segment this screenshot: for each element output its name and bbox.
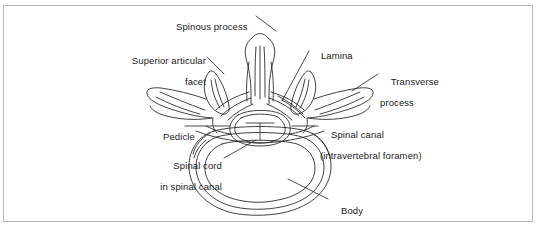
label-spinal-cord-line2: in spinal canal — [126, 182, 222, 193]
label-spinal-canal-line2: (intravertebral foramen) — [320, 151, 422, 162]
label-superior-articular-facet-line1: Superior articular — [132, 55, 206, 66]
label-lamina-line1: Lamina — [321, 50, 353, 61]
label-body-line1: Body — [341, 205, 363, 216]
label-spinous-process: Spinous process — [165, 11, 248, 43]
leader-lamina — [282, 51, 309, 101]
label-spinal-canal-line1: Spinal canal — [331, 129, 384, 140]
label-spinal-cord-line1: Spinal cord — [173, 160, 222, 171]
label-body: Body — [330, 195, 363, 227]
vertebra-diagram — [0, 0, 537, 230]
label-spinous-process-line1: Spinous process — [176, 21, 248, 32]
leader-spinous-process — [256, 16, 276, 31]
label-pedicle: Pedicle — [152, 121, 195, 153]
spinous-process-shape — [245, 34, 275, 105]
leader-transverse-process — [352, 74, 378, 91]
label-transverse-process-line1: Transverse — [391, 76, 439, 87]
label-spinal-cord: Spinal cord in spinal canal — [126, 150, 222, 213]
label-pedicle-line1: Pedicle — [163, 131, 195, 142]
label-superior-articular-facet-line2: facet — [110, 77, 206, 88]
figure-screenshot: Spinous process Superior articular facet… — [0, 0, 537, 230]
label-superior-articular-facet: Superior articular facet — [110, 45, 206, 108]
label-spinal-canal: Spinal canal (intravertebral foramen) — [320, 119, 422, 182]
label-lamina: Lamina — [310, 40, 353, 72]
label-transverse-process-line2: process — [380, 98, 439, 109]
